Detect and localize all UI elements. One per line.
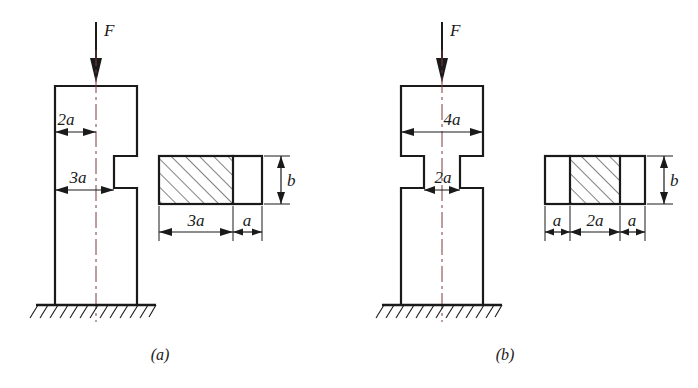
cross-section-a — [159, 156, 262, 204]
dim-label-3a-a: 3a — [69, 168, 87, 187]
dim-widths-a: 3a a — [159, 206, 262, 241]
section-b-plain-right-a — [620, 156, 645, 204]
ground-support-b — [376, 305, 502, 318]
cross-section-b — [545, 156, 645, 204]
panel-b: F — [376, 21, 679, 364]
dim-b-a: b — [264, 156, 296, 204]
dim-label-2a-a: 2a — [58, 110, 75, 129]
ground-support-a — [30, 305, 156, 318]
dim-3a-a: 3a — [55, 168, 114, 194]
dim-label-2a-section-b: 2a — [587, 211, 604, 230]
force-label-a: F — [103, 21, 115, 40]
dim-label-b-b: b — [670, 171, 679, 190]
engineering-figure: F — [0, 0, 698, 388]
dim-b-b: b — [647, 156, 679, 204]
caption-b: (b) — [496, 346, 515, 364]
section-b-plain-left-a — [545, 156, 570, 204]
dim-label-3a-section-a: 3a — [187, 211, 205, 230]
panel-a: F — [30, 21, 296, 364]
figure-canvas: F — [0, 0, 698, 388]
dim-label-a-right-section-b: a — [628, 211, 637, 230]
dim-label-b-a: b — [287, 171, 296, 190]
dim-label-a-left-section-b: a — [553, 211, 562, 230]
section-b-hatched-2a — [570, 156, 620, 204]
dim-label-4a-b: 4a — [444, 110, 461, 129]
section-a-plain-a — [233, 156, 262, 204]
section-a-hatched-3a — [159, 156, 233, 204]
force-label-b: F — [449, 21, 461, 40]
dim-label-2a-b: 2a — [435, 168, 452, 187]
dim-2a-a: 2a — [55, 110, 96, 136]
dim-widths-b: a 2a a — [545, 206, 645, 241]
ground-hatching-b — [376, 305, 502, 318]
dim-2a-b: 2a — [424, 168, 460, 194]
ground-hatching-a — [30, 305, 156, 318]
dim-label-a-section-a: a — [243, 211, 252, 230]
caption-a: (a) — [151, 346, 170, 364]
